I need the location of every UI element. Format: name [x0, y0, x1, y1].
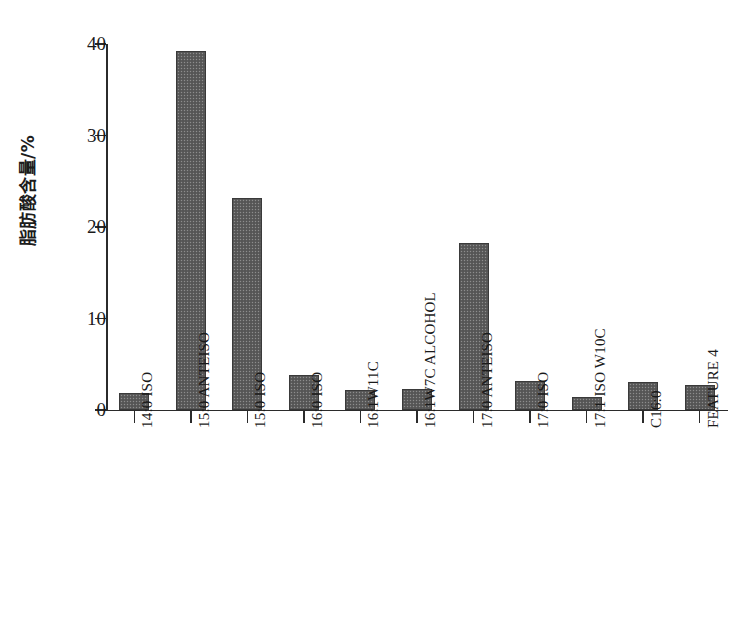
x-tick-mark: [586, 411, 588, 423]
y-tick-label: 30: [60, 126, 106, 145]
y-axis-ticks: 010203040: [0, 0, 106, 631]
bar-chart-figure: 脂肪酸含量/% 010203040 14:0 ISO15:0 ANTEISO15…: [0, 0, 735, 631]
x-tick-label: 15:0 ISO: [253, 372, 268, 428]
x-tick-mark: [473, 411, 475, 423]
x-tick-label: 14:0 ISO: [140, 372, 155, 428]
x-tick-mark: [247, 411, 249, 423]
x-tick-mark: [360, 411, 362, 423]
y-tick-label: 0: [60, 400, 106, 419]
x-tick-label: C16:0: [649, 390, 664, 428]
x-tick-label: 15:0 ANTEISO: [197, 332, 212, 428]
x-tick-mark: [134, 411, 136, 423]
x-tick-label: 16:0 ISO: [310, 372, 325, 428]
x-tick-mark: [190, 411, 192, 423]
x-tick-label: 16:1W11C: [366, 361, 381, 428]
x-tick-label: 16:1W7C ALCOHOL: [423, 292, 438, 428]
x-tick-mark: [416, 411, 418, 423]
x-tick-mark: [529, 411, 531, 423]
y-tick-label: 20: [60, 217, 106, 236]
x-tick-mark: [699, 411, 701, 423]
x-tick-label: 17:0 ANTEISO: [480, 332, 495, 428]
y-tick-label: 40: [60, 34, 106, 53]
x-tick-label: 17:0 ISO: [536, 372, 551, 428]
y-tick-label: 10: [60, 309, 106, 328]
x-tick-label: 17:1 ISO W10C: [593, 328, 608, 428]
x-tick-mark: [642, 411, 644, 423]
x-tick-mark: [303, 411, 305, 423]
x-tick-label: FEATURE 4: [706, 349, 721, 428]
